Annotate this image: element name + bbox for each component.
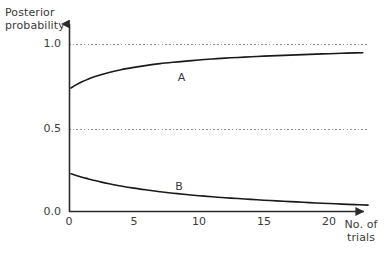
curve-series-b <box>71 174 368 205</box>
curve-series-a <box>71 53 363 88</box>
series-label-a: A <box>178 72 186 83</box>
y-tick-label-0.5: 0.5 <box>33 123 61 134</box>
x-axis-title: No. of trials <box>333 218 389 244</box>
x-tick-label-20: 20 <box>319 216 339 227</box>
y-tick-label-1.0: 1.0 <box>33 38 61 49</box>
x-tick-label-0: 0 <box>59 216 79 227</box>
reference-lines <box>69 44 368 129</box>
x-tick-label-5: 5 <box>124 216 144 227</box>
x-tick-label-15: 15 <box>254 216 274 227</box>
series-curves <box>71 53 368 205</box>
series-label-b: B <box>175 181 183 192</box>
x-tick-label-10: 10 <box>189 216 209 227</box>
y-axis-title: Posterior probability <box>5 6 65 32</box>
chart-figure: Posterior probability No. of trials 1.0 … <box>0 0 390 259</box>
y-tick-label-0.0: 0.0 <box>33 206 61 217</box>
